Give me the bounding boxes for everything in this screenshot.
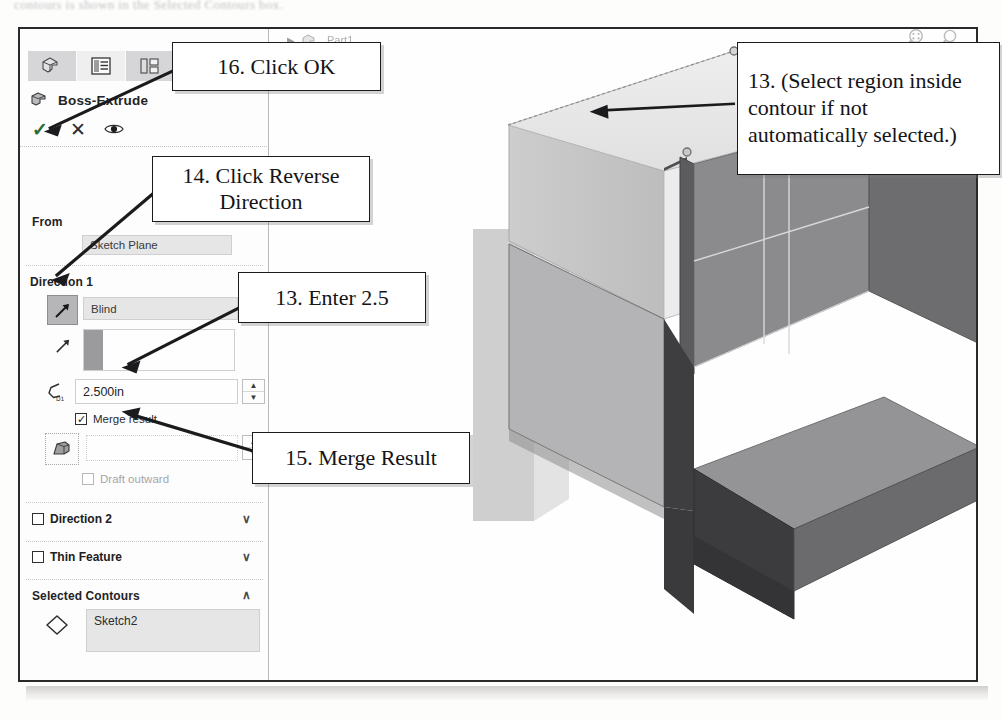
- checkbox-box[interactable]: [32, 551, 44, 563]
- panel-divider: [26, 502, 263, 503]
- direction2-label: Direction 2: [50, 512, 112, 526]
- direction1-group-header: Direction 1: [30, 275, 93, 289]
- callout-select-region: 13. (Select region inside contour if not…: [737, 42, 1000, 175]
- start-condition-field[interactable]: Sketch Plane: [82, 235, 232, 255]
- configurations-icon: [137, 56, 163, 76]
- selected-contour-item[interactable]: Sketch2: [86, 609, 260, 652]
- direction-vector-button[interactable]: [47, 331, 78, 361]
- draft-outward-label: Draft outward: [100, 473, 169, 485]
- selected-contours-header: Selected Contours: [32, 589, 140, 603]
- draft-angle-icon: [51, 439, 73, 459]
- cutoff-top-text: contours is shown in the Selected Contou…: [14, 0, 574, 9]
- panel-divider: [26, 579, 263, 580]
- configuration-manager-tab[interactable]: [126, 51, 175, 81]
- reverse-direction-button[interactable]: [47, 295, 78, 325]
- merge-result-checkbox[interactable]: ✓ Merge result: [75, 413, 157, 425]
- property-manager-actions: ✓ ✕: [32, 117, 232, 141]
- depth-label-icon-wrap: D1: [42, 379, 72, 405]
- callout-click-ok: 16. Click OK: [172, 42, 381, 91]
- spinner-down-icon[interactable]: ▼: [243, 392, 264, 403]
- direction-vector-field[interactable]: [83, 329, 235, 371]
- contour-diamond-icon: [44, 613, 70, 637]
- chevron-down-icon[interactable]: ∨: [242, 512, 251, 526]
- scanned-page: contours is shown in the Selected Contou…: [0, 0, 1002, 720]
- draft-angle-field[interactable]: [86, 435, 238, 461]
- draft-outward-checkbox[interactable]: Draft outward: [82, 473, 169, 485]
- preview-vertex: [683, 148, 691, 156]
- merge-result-label: Merge result: [93, 413, 157, 425]
- depth-d1-icon: D1: [46, 382, 68, 402]
- panel-divider: [26, 541, 263, 542]
- depth-field[interactable]: 2.500in: [75, 379, 238, 404]
- feature-manager-tab[interactable]: [28, 51, 77, 81]
- page-title: Boss-Extrude: [58, 93, 148, 108]
- property-manager-tab[interactable]: [77, 51, 126, 81]
- callout-text: 14. Click Reverse Direction: [182, 163, 339, 215]
- checkbox-box[interactable]: ✓: [75, 413, 87, 425]
- eye-icon[interactable]: [104, 122, 124, 136]
- ok-button[interactable]: ✓: [32, 120, 48, 139]
- from-group-header: From: [32, 215, 62, 229]
- svg-text:D1: D1: [56, 395, 65, 402]
- cube-icon: [39, 56, 65, 76]
- direction2-checkbox-row[interactable]: Direction 2: [32, 512, 112, 526]
- checkbox-box[interactable]: [32, 513, 44, 525]
- property-manager-title-row: Boss-Extrude: [30, 89, 260, 111]
- window-drop-shadow: [26, 686, 988, 700]
- list-properties-icon: [89, 56, 113, 76]
- spinner-up-icon[interactable]: ▲: [243, 380, 264, 392]
- panel-divider: [26, 265, 263, 266]
- chevron-up-icon[interactable]: ∧: [242, 588, 251, 602]
- thin-feature-label: Thin Feature: [50, 550, 122, 564]
- reverse-direction-arrow-icon: [53, 301, 72, 320]
- field-color-swatch: [84, 330, 103, 370]
- boss-extrude-icon: [30, 91, 50, 109]
- callout-click-reverse-direction: 14. Click Reverse Direction: [152, 156, 370, 222]
- panel-divider: [20, 146, 269, 147]
- draft-angle-button[interactable]: [45, 433, 79, 465]
- callout-merge-result: 15. Merge Result: [252, 432, 470, 484]
- thin-feature-checkbox-row[interactable]: Thin Feature: [32, 550, 122, 564]
- cancel-button[interactable]: ✕: [70, 120, 86, 139]
- solid-dark-left-face-lower: [664, 507, 694, 614]
- direction-vector-arrow-icon: [54, 337, 72, 355]
- property-manager-panel: Boss-Extrude ✓ ✕ From Sketch Plane Direc…: [20, 29, 269, 680]
- depth-spinner[interactable]: ▲ ▼: [242, 379, 265, 404]
- checkbox-box[interactable]: [82, 473, 94, 485]
- solid-rib: [680, 157, 694, 374]
- end-condition-select[interactable]: Blind: [83, 297, 238, 320]
- chevron-down-icon[interactable]: ∨: [242, 550, 251, 564]
- callout-enter-depth: 13. Enter 2.5: [238, 272, 426, 323]
